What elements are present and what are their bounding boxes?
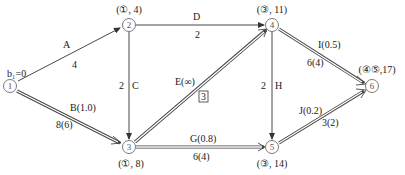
edge-a: A 4 <box>18 28 120 81</box>
edge-c-value: 2 <box>119 80 124 91</box>
edge-h: 2 H <box>261 32 282 139</box>
node-1-label: 1 <box>8 81 13 91</box>
edge-d-name: D <box>193 11 200 22</box>
node-3-annotation: (①, 8) <box>118 158 144 170</box>
edge-c: 2 C <box>119 32 139 139</box>
edge-h-value: 2 <box>261 80 266 91</box>
edge-d-value: 2 <box>195 29 200 40</box>
network-diagram: A 4 B(1.0) 8(6) 2 C D 2 E(∞) 3 G(0.8) 6(… <box>0 0 405 175</box>
edge-g-value: 6(4) <box>193 151 210 163</box>
edge-a-name: A <box>63 39 71 50</box>
node-2-annotation: (①, 4) <box>116 4 142 16</box>
edge-c-name: C <box>132 80 139 91</box>
edge-j-name: J(0.2) <box>299 105 322 117</box>
edge-i-value: 6(4) <box>307 57 324 69</box>
node-6-label: 6 <box>370 81 375 91</box>
node-3: 3 (①, 8) <box>118 141 144 171</box>
edge-b: B(1.0) 8(6) <box>17 91 121 144</box>
node-5-label: 5 <box>270 142 275 152</box>
node-6-annotation: (④⑤,17) <box>358 64 395 76</box>
edge-g: G(0.8) 6(4) <box>136 133 265 163</box>
edge-e: E(∞) 3 <box>135 29 267 142</box>
edge-b-value: 8(6) <box>56 119 73 131</box>
node-3-label: 3 <box>127 142 132 152</box>
node-2-label: 2 <box>127 20 132 30</box>
edge-d: D 2 <box>136 11 264 40</box>
node-6: 6 (④⑤,17) <box>358 64 395 93</box>
start-label: b₁=0 <box>7 68 26 79</box>
edge-j: J(0.2) 3(2) <box>279 89 366 143</box>
edge-a-value: 4 <box>72 59 77 70</box>
node-4-label: 4 <box>270 20 275 30</box>
node-4: 4 (③, 11) <box>257 4 287 32</box>
node-2: 2 (①, 4) <box>116 4 142 32</box>
node-1: 1 <box>4 80 17 93</box>
edge-i: I(0.5) 6(4) <box>279 29 366 85</box>
edge-j-value: 3(2) <box>322 117 339 129</box>
edge-i-name: I(0.5) <box>318 39 341 51</box>
edge-e-value: 3 <box>201 91 206 102</box>
node-5-annotation: (③, 14) <box>257 158 288 170</box>
edge-g-name: G(0.8) <box>190 133 216 145</box>
node-4-annotation: (③, 11) <box>257 4 287 16</box>
edge-b-name: B(1.0) <box>70 102 96 114</box>
edge-h-name: H <box>275 80 282 91</box>
edge-e-name: E(∞) <box>175 76 195 88</box>
